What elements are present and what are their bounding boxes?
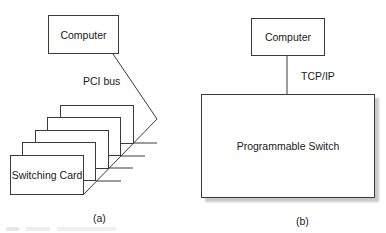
computer-box-b: Computer [251,18,325,56]
caption-b: (b) [296,215,309,227]
diagram: Computer PCI bus Switching Card (a) Comp… [0,0,386,233]
computer-label-b: Computer [265,31,311,43]
programmable-switch-label: Programmable Switch [237,140,340,152]
cut-off-figure-caption [6,227,116,231]
tcpip-label: TCP/IP [301,70,335,82]
programmable-switch-box: Programmable Switch [201,94,375,198]
